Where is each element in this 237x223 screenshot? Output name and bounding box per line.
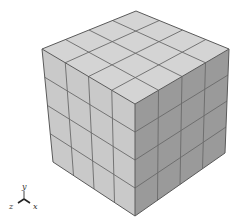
z-axis-arrow-icon: [18, 199, 24, 203]
x-axis-label: x: [33, 202, 38, 211]
z-axis-label: z: [8, 202, 14, 211]
mesh-cube-figure: y x z: [0, 0, 237, 223]
x-axis-arrow-icon: [24, 199, 30, 203]
axis-triad: y x z: [8, 182, 38, 211]
y-axis-label: y: [21, 182, 27, 191]
